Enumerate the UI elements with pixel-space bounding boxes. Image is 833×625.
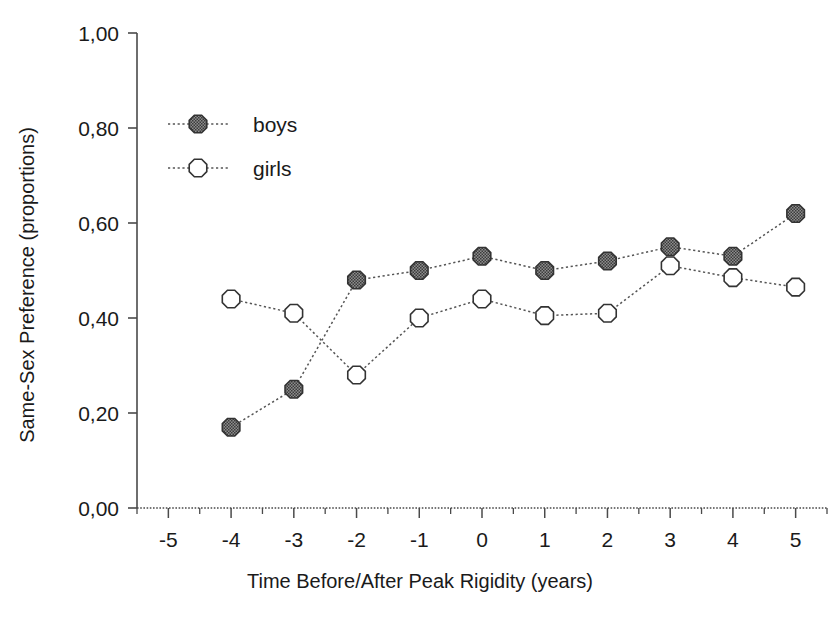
data-point-boys	[661, 238, 679, 256]
data-point-girls	[787, 278, 805, 296]
data-point-girls	[661, 257, 679, 275]
x-tick-label: -4	[222, 528, 241, 551]
x-tick-label: -1	[410, 528, 429, 551]
data-point-girls	[536, 307, 554, 325]
plot-area-background	[137, 33, 827, 508]
legend-label-girls: girls	[253, 157, 292, 180]
data-point-boys	[599, 252, 617, 270]
data-point-boys	[348, 271, 366, 289]
data-point-girls	[285, 304, 303, 322]
data-point-girls	[348, 366, 366, 384]
x-axis-tick-labels: -5-4-3-2-1012345	[159, 528, 801, 551]
line-chart: 0,000,200,400,600,801,00 -5-4-3-2-101234…	[0, 0, 833, 625]
y-axis-tick-labels: 0,000,200,400,600,801,00	[78, 22, 119, 520]
x-tick-label: -3	[284, 528, 303, 551]
y-axis-title: Same-Sex Preference (proportions)	[16, 127, 38, 443]
data-point-girls	[473, 290, 491, 308]
x-axis	[137, 508, 827, 518]
y-tick-label: 0,80	[78, 117, 119, 140]
x-tick-label: 1	[539, 528, 551, 551]
data-point-boys	[724, 247, 742, 265]
y-axis	[128, 33, 137, 508]
y-tick-label: 0,00	[78, 497, 119, 520]
data-point-boys	[411, 262, 429, 280]
data-point-boys	[285, 380, 303, 398]
y-tick-label: 0,20	[78, 402, 119, 425]
x-tick-label: -5	[159, 528, 178, 551]
data-point-girls	[724, 269, 742, 287]
x-tick-label: 4	[727, 528, 739, 551]
chart-page: 0,000,200,400,600,801,00 -5-4-3-2-101234…	[0, 0, 833, 625]
y-tick-label: 1,00	[78, 22, 119, 45]
x-tick-label: 0	[476, 528, 488, 551]
data-point-boys	[536, 262, 554, 280]
data-point-girls	[411, 309, 429, 327]
legend-swatch-boys	[189, 115, 207, 133]
data-point-girls	[599, 304, 617, 322]
x-tick-label: 3	[664, 528, 676, 551]
y-tick-label: 0,40	[78, 307, 119, 330]
x-tick-label: 5	[790, 528, 802, 551]
x-tick-label: 2	[602, 528, 614, 551]
data-point-boys	[473, 247, 491, 265]
x-axis-title: Time Before/After Peak Rigidity (years)	[247, 570, 593, 592]
data-point-boys	[222, 418, 240, 436]
x-tick-label: -2	[347, 528, 366, 551]
data-point-girls	[222, 290, 240, 308]
y-tick-label: 0,60	[78, 212, 119, 235]
legend-swatch-girls	[189, 159, 207, 177]
data-point-boys	[787, 205, 805, 223]
legend-label-boys: boys	[253, 113, 297, 136]
